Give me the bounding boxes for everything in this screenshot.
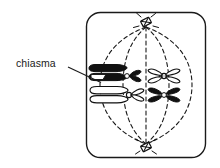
figure-canvas: chiasma (0, 0, 220, 168)
chiasma-label: chiasma (16, 57, 56, 69)
chromosome-left-lower-arm-a (90, 87, 128, 94)
meiosis-metaphase-diagram (0, 0, 220, 168)
chromosome-left-lower-arm-b (90, 96, 128, 103)
centromere-right-lower (162, 93, 167, 98)
chromosome-left-upper-arms (89, 65, 127, 72)
